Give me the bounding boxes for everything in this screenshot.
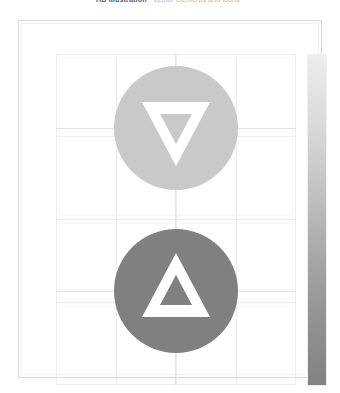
triangle-up-icon [114, 229, 238, 353]
preview-card [18, 20, 322, 378]
watermark-banner: HD Illustration vector elements and icon… [0, 0, 340, 9]
upward-triangle-mark[interactable] [56, 229, 296, 353]
screenshot-root: HD Illustration vector elements and icon… [0, 0, 340, 393]
watermark-brand: HD Illustration [96, 0, 147, 4]
watermark-text-group: HD Illustration vector elements and icon… [96, 0, 240, 4]
grid-row-line [56, 384, 296, 385]
triangle-down-icon [114, 66, 238, 190]
downward-triangle-mark[interactable] [56, 66, 296, 190]
artboard [56, 54, 296, 385]
watermark-subtitle: vector elements and icons [154, 0, 240, 4]
grid-row-line [56, 219, 296, 220]
grayscale-gradient-bar[interactable] [307, 54, 327, 386]
grid-row-line [56, 54, 296, 55]
